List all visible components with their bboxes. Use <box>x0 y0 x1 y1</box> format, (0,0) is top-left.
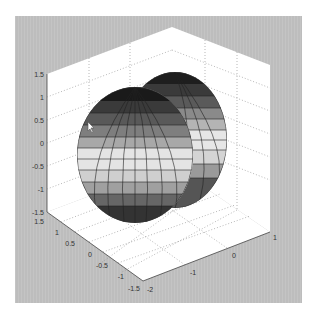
z-tick: 0 <box>40 140 44 147</box>
z-tick: 1.5 <box>34 71 44 78</box>
x-tick: -1 <box>118 273 124 280</box>
x-tick: 1 <box>55 229 59 236</box>
z-tick: -1 <box>38 186 44 193</box>
z-tick: -1.5 <box>32 209 44 216</box>
y-tick: 0 <box>232 252 236 259</box>
figure-canvas: 1.5 1 0.5 0 -0.5 -1 -1.5 1.5 1 0.5 0 -0.… <box>0 0 314 314</box>
y-tick: -1 <box>190 269 196 276</box>
z-tick: -0.5 <box>32 163 44 170</box>
x-tick: 0 <box>88 251 92 258</box>
y-tick: -2 <box>147 286 153 293</box>
z-tick: 0.5 <box>34 117 44 124</box>
x-tick: -1.5 <box>128 285 140 292</box>
x-tick: -0.5 <box>96 262 108 269</box>
z-tick: 1 <box>40 94 44 101</box>
x-tick: 1.5 <box>34 218 44 225</box>
y-tick: 1 <box>273 234 277 241</box>
x-tick: 0.5 <box>65 240 75 247</box>
